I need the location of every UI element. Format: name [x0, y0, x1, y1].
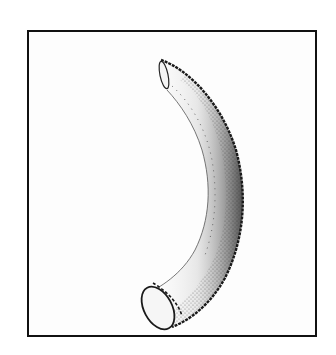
tusk-shell-illustration	[0, 0, 336, 355]
